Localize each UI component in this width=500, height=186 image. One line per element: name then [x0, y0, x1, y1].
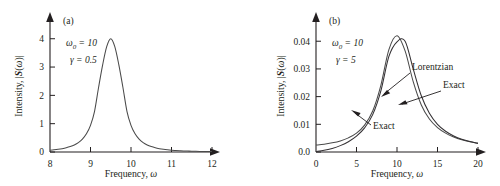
- panel-b-label: (b): [329, 16, 340, 27]
- y-tick-label: 3: [39, 62, 44, 72]
- y-axis-arrowhead: [312, 12, 320, 22]
- curve-lorentzian: [316, 36, 478, 145]
- exact-right-arrowhead: [398, 100, 408, 105]
- lorentzian-label: Lorentzian: [412, 62, 453, 72]
- exact-label-right: Exact: [443, 80, 465, 90]
- y-tick-label: 0.03: [293, 64, 310, 74]
- panel-b-xlabel: Frequency, ω: [371, 168, 424, 179]
- omega0-param: ω0 = 10: [332, 38, 363, 51]
- x-tick-label: 12: [207, 159, 217, 169]
- panel-b-ylabel: Intensity, |S(ω)|: [275, 55, 287, 116]
- y-tick-label: 0: [39, 147, 44, 157]
- y-tick-label: 2: [39, 91, 44, 101]
- panel-a-xlabel: Frequency, ω: [105, 168, 158, 179]
- y-tick-label: 0.0: [298, 147, 310, 157]
- y-axis-arrowhead: [46, 12, 54, 22]
- x-tick-label: 15: [433, 159, 443, 169]
- x-tick-label: 5: [354, 159, 359, 169]
- panel-b-plot: 051015200.00.010.020.030.04 (b) ω0 = 10 …: [250, 0, 500, 186]
- x-tick-label: 0: [314, 159, 319, 169]
- panel-a-parameters: ω0 = 10 γ = 0.5: [66, 38, 97, 65]
- y-tick-label: 0.01: [293, 120, 310, 130]
- panel-a-plot: 8910111201234 (a) ω0 = 10 γ = 0.5 Freque…: [0, 0, 250, 186]
- gamma-param: γ = 0.5: [70, 55, 97, 65]
- panel-a-tick-labels: 8910111201234: [39, 34, 217, 169]
- y-tick-label: 0.02: [293, 92, 310, 102]
- panel-a: 8910111201234 (a) ω0 = 10 γ = 0.5 Freque…: [0, 0, 250, 186]
- panel-a-ylabel: Intensity, |S(ω)|: [13, 55, 25, 116]
- y-tick-label: 4: [39, 34, 44, 44]
- panel-a-axes: [46, 12, 220, 156]
- x-tick-label: 20: [473, 159, 483, 169]
- gamma-param: γ = 5: [336, 55, 356, 65]
- panel-b-tick-labels: 051015200.00.010.020.030.04: [293, 37, 483, 169]
- lorentzian-arrowhead: [381, 90, 390, 97]
- exact-callout-right: Exact: [398, 80, 465, 105]
- panel-b: 051015200.00.010.020.030.04 (b) ω0 = 10 …: [250, 0, 500, 186]
- y-tick-label: 0.04: [293, 37, 310, 47]
- omega0-param: ω0 = 10: [66, 38, 97, 51]
- x-tick-label: 11: [167, 159, 176, 169]
- panel-a-label: (a): [63, 16, 74, 27]
- exact-label-left: Exact: [373, 121, 395, 131]
- exact-left-arrowhead: [351, 110, 361, 116]
- y-tick-label: 1: [39, 119, 44, 129]
- panel-b-curves: [316, 36, 478, 152]
- resonance-figure: 8910111201234 (a) ω0 = 10 γ = 0.5 Freque…: [0, 0, 500, 186]
- x-tick-label: 9: [88, 159, 93, 169]
- x-tick-label: 8: [48, 159, 53, 169]
- panel-b-parameters: ω0 = 10 γ = 5: [332, 38, 363, 65]
